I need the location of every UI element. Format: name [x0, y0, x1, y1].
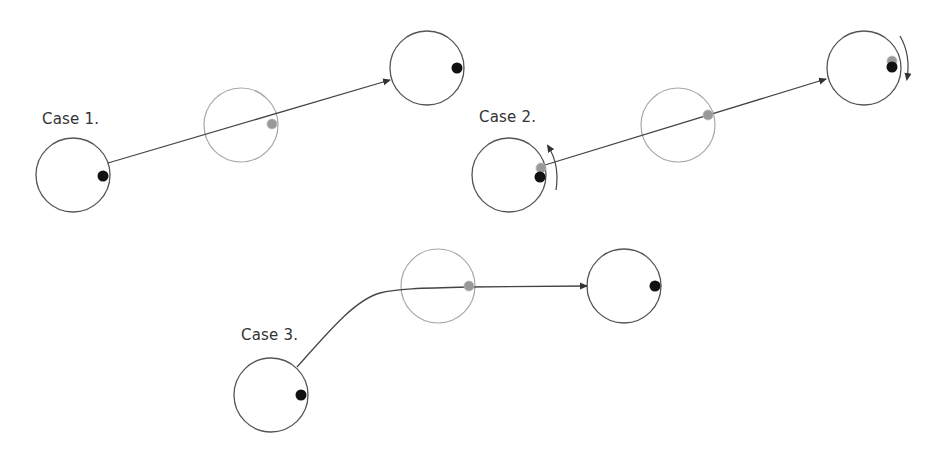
case-3-straight-trajectory-arrow	[469, 286, 587, 287]
case-1-end-black-dot	[452, 63, 463, 74]
case-2-label: Case 2.	[479, 108, 536, 126]
case-1-middle-gray-dot	[267, 119, 277, 129]
case-3-end-black-dot	[650, 281, 661, 292]
case-1-label: Case 1.	[42, 110, 99, 128]
diagram-canvas: Case 1. Case 2. Case 3.	[0, 0, 942, 460]
case-2-start-black-dot	[535, 172, 546, 183]
case-3-curved-trajectory	[297, 287, 469, 367]
case-3-label: Case 3.	[241, 326, 298, 344]
case-3-middle-gray-dot	[464, 281, 474, 291]
case-1-start-black-dot	[98, 171, 109, 182]
diagram-svg	[0, 0, 942, 460]
case-2-middle-ghost-circle	[641, 88, 715, 162]
case-3-start-black-dot	[296, 390, 307, 401]
case-2-middle-gray-dot	[703, 110, 713, 120]
case-2-trajectory-arrow	[545, 79, 826, 165]
case-1-trajectory-arrow	[108, 80, 390, 163]
case-2-start-rotation-arrow-icon	[548, 146, 557, 190]
case-2-group	[472, 31, 908, 212]
case-1-group	[36, 31, 464, 212]
case-2-end-black-dot	[887, 62, 898, 73]
case-2-start-gray-dot	[536, 163, 546, 173]
